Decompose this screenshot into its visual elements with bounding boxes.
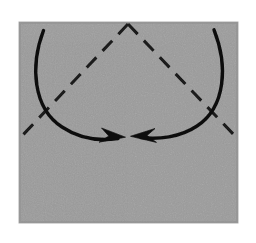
origami-figure	[0, 0, 256, 243]
origami-diagram-canvas	[0, 0, 256, 243]
